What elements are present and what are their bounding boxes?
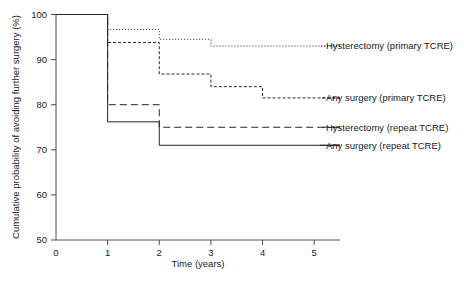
x-tick-label: 0 xyxy=(53,247,58,258)
y-tick-marks xyxy=(51,15,56,241)
series-line-2 xyxy=(56,15,340,128)
y-tick-label: 70 xyxy=(36,144,47,155)
y-tick-label: 100 xyxy=(31,9,47,20)
y-tick-label: 60 xyxy=(36,189,47,200)
y-tick-labels: 5060708090100 xyxy=(31,9,47,246)
x-tick-label: 3 xyxy=(208,247,213,258)
legend-label-3: Any surgery (repeat TCRE) xyxy=(326,140,441,151)
y-tick-label: 80 xyxy=(36,99,47,110)
x-tick-label: 4 xyxy=(260,247,265,258)
legend-label-1: Any surgery (primary TCRE) xyxy=(326,92,446,103)
x-axis-title: Time (years) xyxy=(172,258,225,269)
y-tick-label: 90 xyxy=(36,54,47,65)
x-axis-group: 012345 Time (years) xyxy=(53,240,340,269)
x-tick-marks xyxy=(108,240,315,245)
chart-legend: Hysterectomy (primary TCRE)Any surgery (… xyxy=(320,40,453,150)
y-tick-label: 50 xyxy=(36,234,47,245)
x-tick-label: 5 xyxy=(312,247,317,258)
chart-figure: 5060708090100 Cumulative probability of … xyxy=(0,0,464,282)
x-tick-label: 1 xyxy=(105,247,110,258)
y-axis-group: 5060708090100 Cumulative probability of … xyxy=(10,9,56,246)
series-line-0 xyxy=(56,15,340,47)
y-axis-title: Cumulative probability of avoiding furth… xyxy=(10,15,21,239)
series-line-3 xyxy=(56,15,340,146)
kaplan-meier-chart: 5060708090100 Cumulative probability of … xyxy=(0,0,464,282)
series-paths xyxy=(56,15,340,146)
x-tick-label: 2 xyxy=(157,247,162,258)
legend-label-0: Hysterectomy (primary TCRE) xyxy=(326,40,453,51)
series-line-1 xyxy=(56,15,340,98)
legend-label-2: Hysterectomy (repeat TCRE) xyxy=(326,122,448,133)
x-tick-labels: 012345 xyxy=(53,247,316,258)
